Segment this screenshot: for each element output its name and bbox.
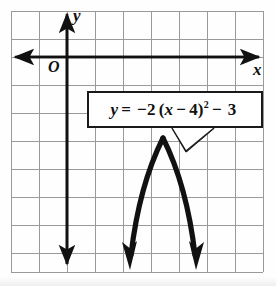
equation-minus: − [176, 100, 186, 119]
equation-k: 3 [228, 100, 237, 119]
page-edge-shadow [0, 277, 276, 286]
equation-text: y=−2(x−4)2−3 [110, 99, 239, 120]
parabola-right-arrowhead [189, 241, 204, 270]
equation-variable: x [165, 100, 174, 119]
equation-equals: = [121, 100, 131, 119]
origin-label: O [48, 58, 60, 76]
equation-lhs: y [110, 100, 118, 119]
graph-canvas [0, 0, 276, 286]
equation-h: 4 [189, 100, 198, 119]
y-axis-label: y [73, 6, 81, 26]
graph-figure: y=−2(x−4)2−3 y x O [0, 0, 276, 286]
parabola-left-arrowhead [122, 241, 137, 270]
equation-coefficient: −2 [137, 100, 156, 119]
equation-sign2: − [212, 100, 222, 119]
x-axis-label: x [253, 60, 262, 80]
grid-lines [11, 11, 263, 272]
equation-exponent: 2 [204, 99, 209, 110]
equation-callout-box: y=−2(x−4)2−3 [87, 91, 263, 128]
